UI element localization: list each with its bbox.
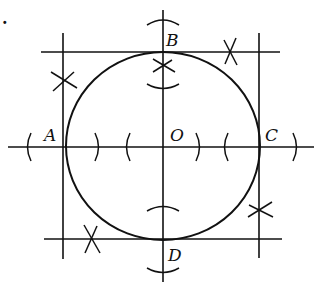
intersection-mark-center-top [153, 59, 175, 72]
label-point-d: D [167, 245, 182, 265]
intersection-mark-right-bottom [248, 202, 273, 217]
label-point-a: A [42, 125, 56, 145]
geometry-figure: . A B O C D [0, 0, 314, 293]
label-point-o: O [170, 125, 184, 145]
label-point-b: B [165, 30, 179, 50]
label-point-c: C [265, 125, 278, 145]
intersection-mark-left-top [51, 72, 77, 91]
figure-number-fragment: . [2, 9, 8, 28]
